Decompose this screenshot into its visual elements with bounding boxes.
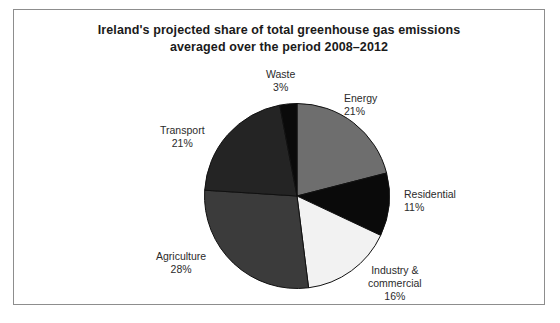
pie-label-agriculture-name: Agriculture xyxy=(156,250,206,263)
chart-title: Ireland's projected share of total green… xyxy=(14,22,544,56)
pie-label-energy-value: 21% xyxy=(344,105,377,118)
pie-label-waste-value: 3% xyxy=(266,81,295,94)
pie-label-waste: Waste 3% xyxy=(266,68,295,94)
pie-label-transport-name: Transport xyxy=(160,124,205,137)
pie-label-residential: Residential 11% xyxy=(404,188,456,214)
pie-label-energy: Energy 21% xyxy=(344,92,377,118)
pie-label-residential-name: Residential xyxy=(404,188,456,201)
pie-label-transport: Transport 21% xyxy=(160,124,205,150)
pie-label-agriculture: Agriculture 28% xyxy=(156,250,206,276)
chart-frame: Ireland's projected share of total green… xyxy=(13,9,545,305)
chart-title-line-1: Ireland's projected share of total green… xyxy=(14,22,544,39)
pie-label-industry-commercial: Industry & commercial 16% xyxy=(368,264,422,303)
pie-label-energy-name: Energy xyxy=(344,92,377,105)
pie-label-industry-commercial-name-line-2: commercial xyxy=(368,277,422,290)
pie-label-agriculture-value: 28% xyxy=(156,263,206,276)
chart-title-line-2: averaged over the period 2008–2012 xyxy=(14,39,544,56)
pie-label-waste-name: Waste xyxy=(266,68,295,81)
pie-label-industry-commercial-name-line-1: Industry & xyxy=(368,264,422,277)
pie-label-industry-commercial-value: 16% xyxy=(368,290,422,303)
pie-label-residential-value: 11% xyxy=(404,201,456,214)
pie-label-transport-value: 21% xyxy=(160,137,205,150)
